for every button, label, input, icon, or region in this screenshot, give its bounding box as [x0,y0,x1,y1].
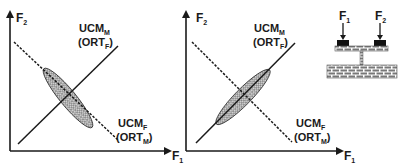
solid-line-label-ucm: UCMM [79,22,110,36]
force1-label: F1 [339,9,350,24]
sensor-2 [374,40,386,46]
beam [335,46,388,51]
panel-b: F2 F1 UCMM (ORTF) UCMF (ORTM) [186,11,355,164]
solid-line-label-ort: (ORTF) [78,36,113,50]
solid-line-ucm-m [196,43,295,143]
sensor-1 [337,40,349,46]
dashed-line-label-ucm: UCMF [296,117,326,131]
dashed-line-label-ort: (ORTM) [294,131,331,145]
solid-line-label-ort: (ORTF) [253,36,288,50]
dashed-line-label-ucm: UCMF [118,117,148,131]
panel-a: F2 F1 UCMM (ORTF) UCMF (ORTM) [10,11,183,164]
solid-line-ucm-m [18,46,118,144]
solid-line-label-ucm: UCMM [254,22,285,36]
variance-ellipse [211,64,276,129]
beam-support [360,51,363,65]
y-axis-label: F2 [196,11,207,26]
base-block [327,65,397,78]
dashed-line-label-ort: (ORTM) [116,131,153,145]
apparatus-diagram: F1 F2 [327,9,397,78]
x-axis-label: F1 [344,149,355,164]
x-axis-label: F1 [172,149,183,164]
force2-label: F2 [375,9,386,24]
y-axis-label: F2 [16,11,27,26]
figure-canvas: F2 F1 UCMM (ORTF) UCMF (ORTM) F2 F1 UCMM… [0,0,405,166]
